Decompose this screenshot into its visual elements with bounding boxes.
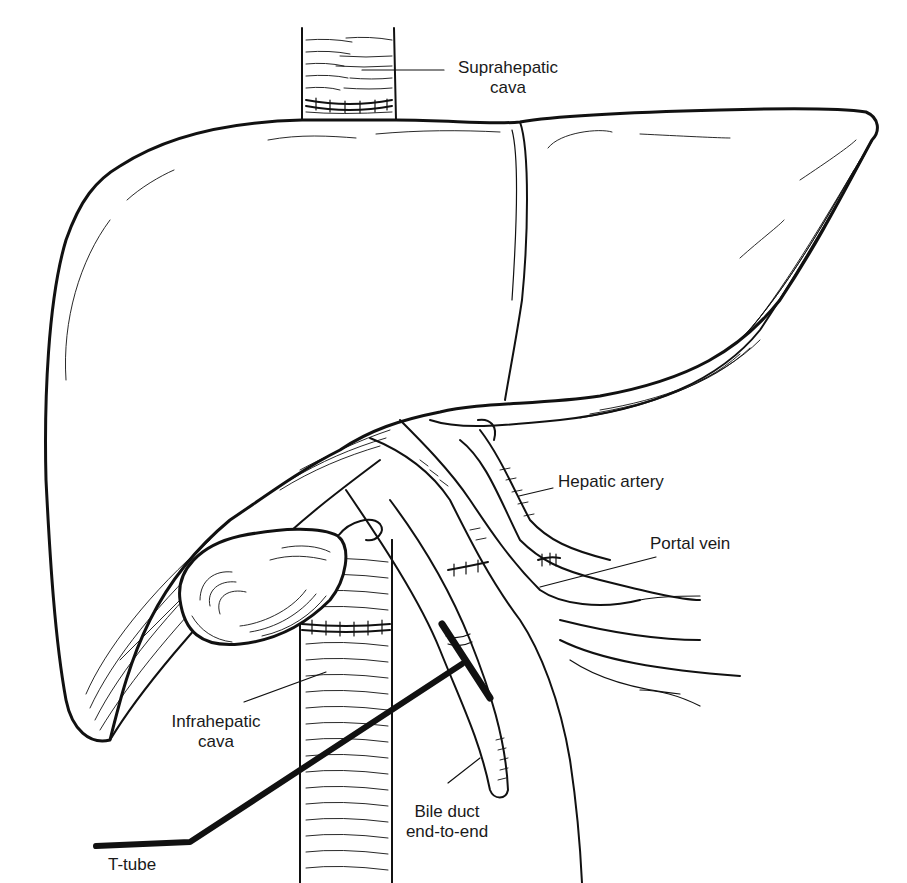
- suprahepatic-cava-vessel: [302, 28, 396, 120]
- label-bile-duct: Bile duct end-to-end: [392, 802, 502, 842]
- leader-bile-duct: [448, 758, 480, 783]
- label-suprahepatic-cava: Suprahepatic cava: [452, 58, 564, 98]
- label-infrahepatic-cava: Infrahepatic cava: [164, 712, 268, 752]
- leader-hepatic-artery: [519, 488, 553, 496]
- liver: [46, 109, 878, 741]
- leader-portal-vein: [540, 557, 656, 587]
- label-portal-vein: Portal vein: [650, 534, 730, 554]
- liver-anatomy-illustration: [0, 0, 907, 883]
- label-t-tube: T-tube: [108, 855, 156, 875]
- hepatic-artery-vessel: [460, 420, 700, 600]
- label-hepatic-artery: Hepatic artery: [558, 472, 664, 492]
